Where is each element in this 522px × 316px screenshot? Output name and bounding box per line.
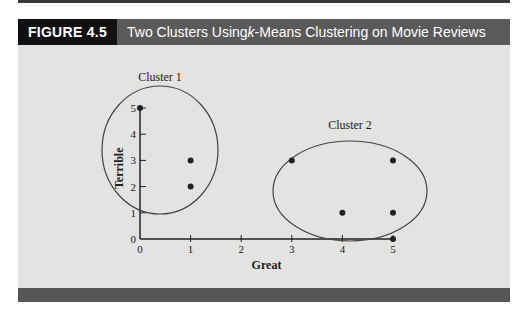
- scatter-chart: 012345012345GreatTerribleCluster 1Cluste…: [0, 0, 522, 316]
- data-point: [390, 157, 396, 163]
- y-tick-label: 5: [131, 102, 137, 114]
- y-tick-label: 2: [131, 181, 137, 193]
- cluster-1-label: Cluster 1: [138, 70, 182, 84]
- y-axis-label: Terrible: [112, 147, 126, 189]
- y-tick-label: 3: [131, 154, 137, 166]
- data-point: [188, 157, 194, 163]
- x-tick-label: 2: [238, 243, 244, 255]
- data-point: [339, 210, 345, 216]
- x-tick-label: 1: [188, 243, 194, 255]
- data-point: [137, 105, 143, 111]
- data-point: [390, 210, 396, 216]
- cluster-2-ellipse: [273, 141, 427, 241]
- x-axis-label: Great: [252, 258, 282, 272]
- data-point: [188, 184, 194, 190]
- x-tick-label: 4: [340, 243, 346, 255]
- x-tick-label: 3: [289, 243, 295, 255]
- x-tick-label: 5: [390, 243, 396, 255]
- x-tick-label: 0: [137, 243, 143, 255]
- cluster-2-label: Cluster 2: [328, 118, 372, 132]
- data-point: [289, 157, 295, 163]
- y-tick-label: 0: [131, 233, 137, 245]
- y-tick-label: 4: [131, 128, 137, 140]
- data-point: [390, 236, 396, 242]
